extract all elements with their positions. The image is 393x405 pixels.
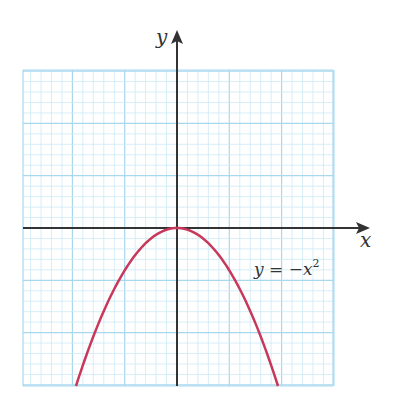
equation-main: y = −x bbox=[253, 259, 313, 279]
y-axis-label: y bbox=[155, 25, 168, 49]
x-axis-label: x bbox=[360, 228, 371, 252]
equation-label: y = −x2 bbox=[253, 257, 320, 279]
equation-exponent: 2 bbox=[313, 257, 320, 270]
chart-canvas: x y y = −x2 bbox=[0, 0, 393, 405]
